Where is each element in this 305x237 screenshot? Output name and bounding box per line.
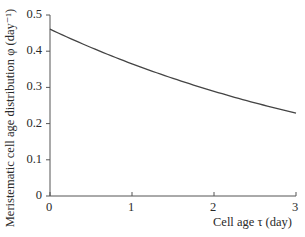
x-tick-label: 1 [128, 200, 134, 215]
y-tick-label: 0.1 [26, 152, 42, 167]
y-axis-label: Meristematic cell age distribution φ (da… [2, 9, 18, 228]
data-line-phi [50, 29, 296, 113]
y-ticks [46, 15, 50, 196]
y-tick-label: 0 [36, 188, 42, 203]
x-ticks [50, 192, 296, 196]
x-tick-label: 2 [210, 200, 216, 215]
y-tick-label: 0.5 [26, 7, 42, 22]
x-axis-label: Cell age τ (day) [213, 215, 292, 230]
y-tick-label: 0.3 [26, 79, 42, 94]
y-tick-label: 0.4 [26, 43, 42, 58]
x-tick-label: 3 [292, 200, 298, 215]
y-tick-label: 0.2 [26, 116, 42, 131]
x-tick-label: 0 [46, 200, 52, 215]
